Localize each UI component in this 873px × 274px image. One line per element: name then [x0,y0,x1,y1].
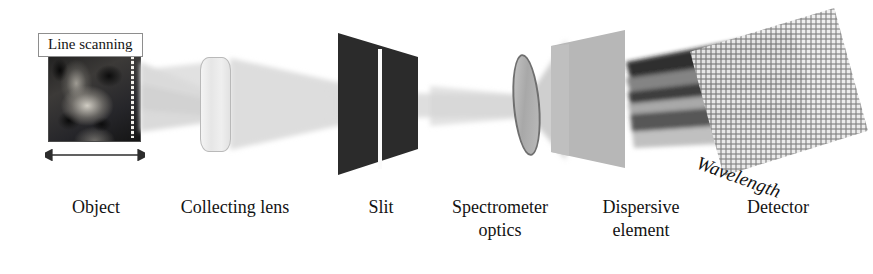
caption-dispersive-element: Dispersive element [576,196,706,241]
dispersive-element-prism [549,28,633,170]
line-scanning-label: Line scanning [38,33,143,57]
caption-detector: Detector [718,196,838,219]
caption-object: Object [46,196,146,219]
caption-slit: Slit [333,196,429,219]
component-captions: Object Collecting lens Slit Spectrometer… [0,196,873,274]
optical-system-diagram: Line scanning Wavelength Object Collecti… [0,0,873,274]
caption-spectrometer-optics: Spectrometer optics [430,196,570,241]
slit-element [330,27,432,177]
slit-aperture [378,49,382,169]
detector-array [690,8,868,176]
collecting-lens-element [200,57,231,152]
caption-collecting-lens: Collecting lens [155,196,315,219]
detector-pixel-grid [690,8,868,176]
